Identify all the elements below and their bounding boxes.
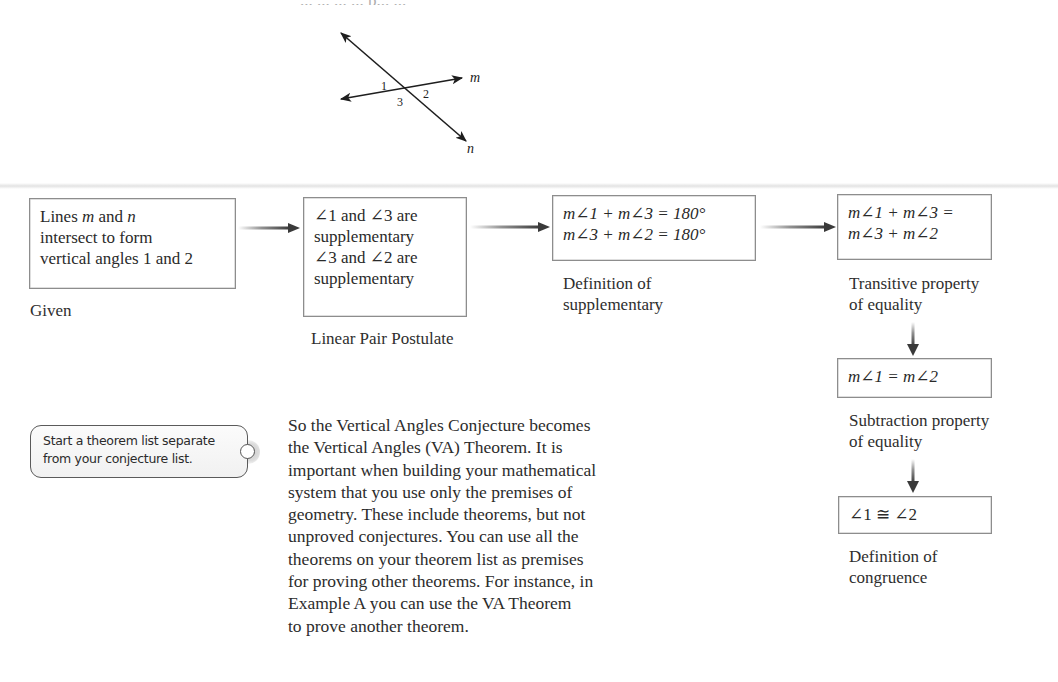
angle-label-1: 1 bbox=[381, 79, 387, 93]
step-3-line-2: m∠3 + m∠2 = 180° bbox=[563, 224, 745, 245]
step-4-line-1: m∠1 + m∠3 = bbox=[848, 202, 981, 223]
step-3-reason-line-1: Definition of bbox=[563, 273, 651, 294]
paragraph-line: So the Vertical Angles Conjecture become… bbox=[288, 414, 708, 436]
step-3-line-1: m∠1 + m∠3 = 180° bbox=[563, 203, 745, 224]
step-2-line-1: ∠1 and ∠3 are bbox=[314, 205, 456, 226]
flow-step-6-box: ∠1 ≅ ∠2 bbox=[838, 496, 992, 534]
step-2-line-2: supplementary bbox=[314, 226, 456, 247]
paragraph-line: theorems on your theorem list as premise… bbox=[288, 548, 708, 570]
flow-step-1-box: Lines m and n intersect to form vertical… bbox=[29, 198, 236, 289]
flow-arrow-4 bbox=[907, 322, 919, 356]
angle-label-2: 2 bbox=[423, 87, 429, 101]
step-4-reason-line-1: Transitive property bbox=[849, 273, 979, 294]
section-divider bbox=[0, 183, 1058, 189]
step-6-reason-line-2: congruence bbox=[849, 567, 927, 588]
angle-label-3: 3 bbox=[397, 95, 403, 109]
step-3-reason-line-2: supplementary bbox=[563, 294, 663, 315]
flow-arrow-3 bbox=[760, 222, 836, 232]
flow-step-3-box: m∠1 + m∠3 = 180° m∠3 + m∠2 = 180° bbox=[552, 195, 756, 261]
step-1-reason: Given bbox=[30, 300, 72, 321]
step-4-line-2: m∠3 + m∠2 bbox=[848, 223, 981, 244]
paragraph-line: to prove another theorem. bbox=[288, 615, 708, 637]
paragraph-line: system that you use only the premises of bbox=[288, 481, 708, 503]
step-5-reason-line-2: of equality bbox=[849, 431, 922, 452]
step-5-line-1: m∠1 = m∠2 bbox=[848, 366, 981, 387]
step-1-line-2: intersect to form bbox=[40, 227, 225, 248]
paragraph-line: important when building your mathematica… bbox=[288, 459, 708, 481]
step-5-reason-line-1: Subtraction property bbox=[849, 410, 989, 431]
flow-arrow-1 bbox=[238, 223, 300, 233]
margin-note-line-2: from your conjecture list. bbox=[43, 450, 247, 468]
step-2-line-3: ∠3 and ∠2 are bbox=[314, 247, 456, 268]
line-n bbox=[341, 33, 466, 141]
paragraph-line: unproved conjectures. You can use all th… bbox=[288, 525, 708, 547]
step-1-line-1: Lines m and n bbox=[40, 206, 225, 227]
step-4-reason-line-2: of equality bbox=[849, 294, 922, 315]
step-2-line-4: supplementary bbox=[314, 268, 456, 289]
step-2-reason: Linear Pair Postulate bbox=[311, 328, 454, 349]
cropped-header-text: ... ... ... ... p... ... bbox=[300, 0, 470, 5]
margin-note: Start a theorem list separate from your … bbox=[30, 425, 248, 478]
flow-arrow-5 bbox=[907, 459, 919, 493]
step-6-line-1: ∠1 ≅ ∠2 bbox=[849, 504, 981, 525]
step-1-line-3: vertical angles 1 and 2 bbox=[40, 248, 225, 269]
margin-note-line-1: Start a theorem list separate bbox=[43, 432, 247, 450]
label-n: n bbox=[467, 141, 474, 156]
paragraph-line: the Vertical Angles (VA) Theorem. It is bbox=[288, 436, 708, 458]
flow-step-2-box: ∠1 and ∠3 are supplementary ∠3 and ∠2 ar… bbox=[303, 197, 467, 317]
body-paragraph: So the Vertical Angles Conjecture become… bbox=[288, 414, 708, 637]
label-m: m bbox=[470, 70, 480, 85]
flow-step-4-box: m∠1 + m∠3 = m∠3 + m∠2 bbox=[837, 194, 992, 260]
vertical-angles-diagram: m n 1 3 2 bbox=[330, 25, 530, 160]
paragraph-line: geometry. These include theorems, but no… bbox=[288, 503, 708, 525]
note-ring-icon bbox=[240, 444, 255, 459]
paragraph-line: Example A you can use the VA Theorem bbox=[288, 592, 708, 614]
flow-arrow-2 bbox=[470, 222, 550, 232]
step-6-reason-line-1: Definition of bbox=[849, 546, 937, 567]
flow-step-5-box: m∠1 = m∠2 bbox=[837, 358, 992, 398]
paragraph-line: for proving other theorems. For instance… bbox=[288, 570, 708, 592]
step-1-text-lines: Lines m and n bbox=[40, 207, 136, 226]
